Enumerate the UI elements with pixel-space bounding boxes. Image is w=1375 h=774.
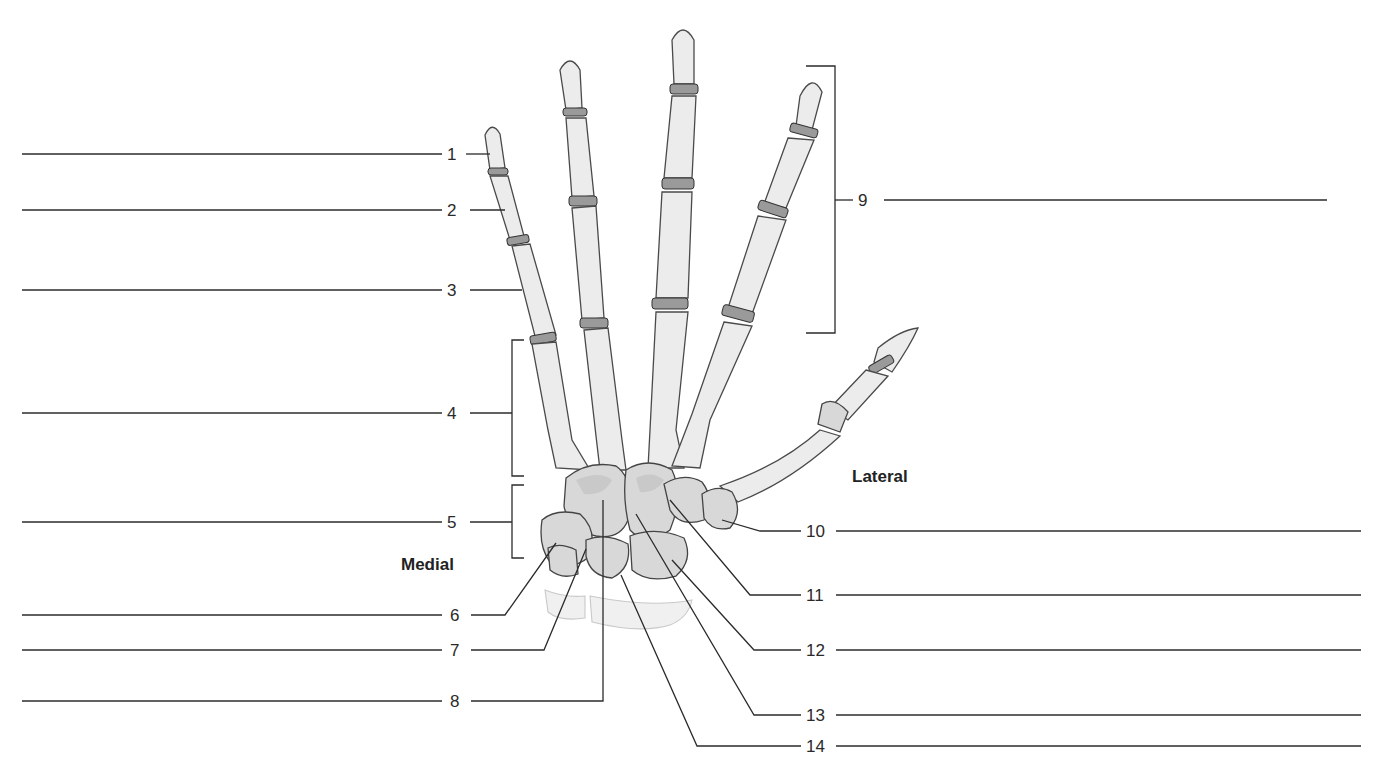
callout-number-13: 13 <box>806 706 825 725</box>
callout-8: 8 <box>22 500 603 711</box>
callout-11: 11 <box>670 500 1361 605</box>
callout-4: 4 <box>22 340 524 476</box>
callout-number-3: 3 <box>447 281 456 300</box>
lateral-label: Lateral <box>852 467 908 486</box>
carpal-bones <box>541 463 738 579</box>
callout-3: 3 <box>22 281 522 300</box>
callout-10: 10 <box>722 520 1361 541</box>
callout-number-7: 7 <box>450 641 459 660</box>
callout-13: 13 <box>636 514 1361 725</box>
callout-5: 5 <box>22 485 524 558</box>
callout-14: 14 <box>621 575 1361 756</box>
callout-12: 12 <box>672 560 1361 660</box>
callout-6: 6 <box>22 543 556 625</box>
metacarpal-bracket <box>512 340 524 476</box>
right-callouts: 9 10 11 12 13 14 <box>621 66 1361 756</box>
ring-finger <box>560 61 626 470</box>
callout-number-2: 2 <box>447 201 456 220</box>
callout-7: 7 <box>22 549 586 660</box>
callout-number-1: 1 <box>447 145 456 164</box>
callout-number-11: 11 <box>806 586 824 605</box>
hand-bones-illustration <box>485 30 918 629</box>
callout-number-5: 5 <box>447 513 456 532</box>
hand-skeleton-diagram: 1 2 3 4 5 6 <box>0 0 1375 774</box>
callout-9: 9 <box>806 66 1327 333</box>
callout-number-8: 8 <box>450 692 459 711</box>
callout-number-12: 12 <box>806 641 825 660</box>
medial-label: Medial <box>401 555 454 574</box>
callout-number-14: 14 <box>806 737 825 756</box>
middle-finger <box>648 30 698 468</box>
index-finger <box>672 83 822 468</box>
callout-1: 1 <box>22 145 490 164</box>
callout-number-6: 6 <box>450 606 459 625</box>
carpal-bracket <box>512 485 524 558</box>
callout-2: 2 <box>22 201 505 220</box>
callout-number-10: 10 <box>806 522 825 541</box>
callout-number-9: 9 <box>858 191 867 210</box>
callout-number-4: 4 <box>447 404 456 423</box>
